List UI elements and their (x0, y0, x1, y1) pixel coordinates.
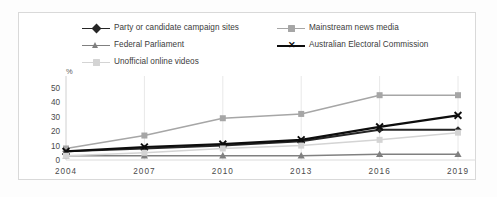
data-point-marker (141, 150, 147, 156)
data-point-marker (63, 153, 69, 159)
data-point-marker (220, 145, 226, 151)
plot-svg (18, 12, 476, 180)
x-axis-tick-label: 2013 (290, 167, 312, 176)
x-axis-tick-label: 2007 (133, 167, 155, 176)
series-line (66, 154, 458, 155)
x-axis-tick-label: 2016 (368, 167, 390, 176)
data-point-marker (141, 133, 147, 139)
data-point-marker (377, 92, 383, 98)
data-point-marker (377, 137, 383, 143)
series-line (66, 115, 458, 151)
data-point-marker (298, 143, 304, 149)
data-point-marker (220, 115, 226, 121)
data-point-marker (455, 130, 461, 136)
chart-container: Party or candidate campaign sites Mainst… (0, 0, 497, 197)
series-line (66, 95, 458, 148)
x-axis-tick-label: 2004 (55, 167, 77, 176)
x-axis-tick-label: 2019 (447, 167, 469, 176)
data-point-marker (298, 111, 304, 117)
data-point-marker (455, 92, 461, 98)
plot-area: % 50403020100 200420072010201320162019 (18, 12, 476, 180)
x-axis-tick-label: 2010 (212, 167, 234, 176)
